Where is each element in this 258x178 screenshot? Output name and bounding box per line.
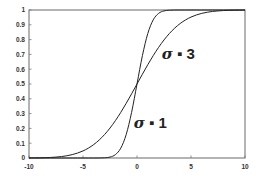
y-tick-label: 0.4 [16,95,25,102]
annotation-value: ▪ 1 [145,114,167,131]
x-tick-label: 0 [135,163,139,170]
y-tick-label: 0.3 [16,110,25,117]
annotation-1: σ ▪ 1 [134,114,167,132]
y-tick-label: 0.1 [16,140,25,147]
y-tick-label: 0.5 [16,80,25,87]
y-tick-label: 0.6 [16,66,25,73]
series-line-sigma-3 [29,10,245,158]
series-lines [29,10,245,158]
x-tick-label: 5 [189,163,193,170]
x-tick-label: -5 [80,163,86,170]
y-tick-label: 0.7 [16,51,25,58]
y-tick-label: 0.2 [16,125,25,132]
curve-annotations: σ ▪ 3σ ▪ 1 [134,45,195,133]
y-tick-label: 0 [21,154,25,161]
x-tick-label: 10 [241,163,249,170]
y-tick-label: 0.9 [16,21,25,28]
annotation-0: σ ▪ 3 [162,45,195,63]
y-tick-label: 0.8 [16,36,25,43]
y-tick-label: 1 [21,6,25,13]
annotation-value: ▪ 3 [173,45,195,62]
chart: -10-50510 00.10.20.30.40.50.60.70.80.91 … [0,0,258,178]
x-tick-label: -10 [24,163,34,170]
